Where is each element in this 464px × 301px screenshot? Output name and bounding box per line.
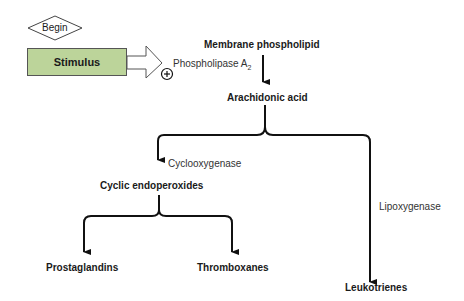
- enzyme-pla2-text: Phospholipase A: [173, 58, 248, 69]
- enzyme-lox: Lipoxygenase: [379, 201, 441, 212]
- node-leukotrienes: Leukotrienes: [345, 282, 407, 293]
- node-membrane: Membrane phospholipid: [204, 39, 320, 50]
- node-arachidonic: Arachidonic acid: [227, 92, 308, 103]
- node-thromboxanes: Thromboxanes: [197, 262, 269, 273]
- enzyme-pla2: Phospholipase A2: [173, 58, 251, 71]
- enzyme-pla2-sub: 2: [248, 64, 252, 71]
- stimulus-box: Stimulus: [27, 48, 127, 76]
- begin-label: Begin: [42, 22, 68, 33]
- enzyme-cox: Cyclooxygenase: [168, 158, 241, 169]
- stimulus-label: Stimulus: [54, 56, 100, 68]
- stimulus-arrow: [127, 46, 162, 78]
- node-prostaglandins: Prostaglandins: [46, 262, 118, 273]
- branch-cyclic: [84, 195, 159, 252]
- branch-arachidonic: [158, 105, 265, 160]
- node-cyclic: Cyclic endoperoxides: [100, 180, 203, 191]
